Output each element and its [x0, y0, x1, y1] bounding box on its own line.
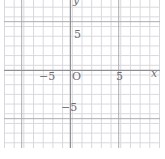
- major-gridlines: [4, 0, 160, 148]
- coordinate-plane-figure: y 5 −5 −5 O 5 x: [0, 0, 165, 159]
- x-tick-label-5: 5: [116, 71, 123, 82]
- y-axis-label: y: [73, 0, 79, 6]
- x-tick-label-negative-5: −5: [39, 71, 55, 82]
- x-axis-label: x: [151, 68, 157, 79]
- y-tick-label-5: 5: [74, 29, 81, 40]
- y-tick-label-negative-5: −5: [61, 102, 77, 113]
- y-axis-line: [70, 0, 71, 148]
- x-axis-line: [4, 70, 160, 71]
- origin-label: O: [72, 71, 81, 82]
